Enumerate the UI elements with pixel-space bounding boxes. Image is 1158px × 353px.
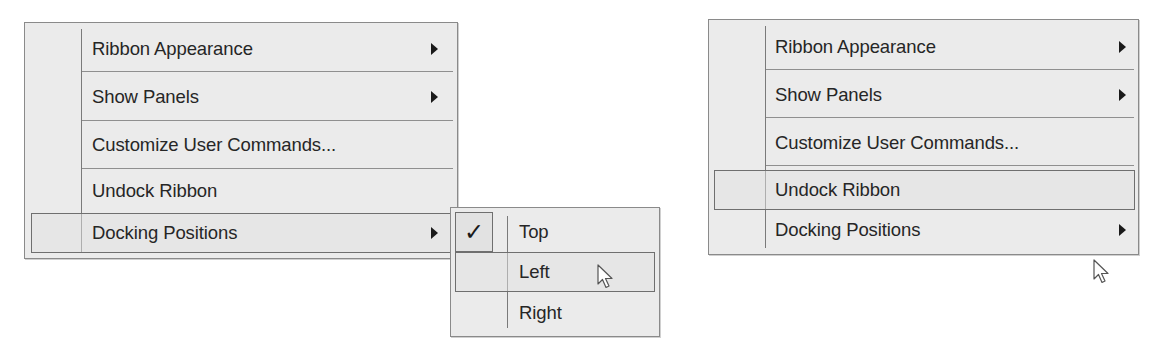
- menu-item-undock-ribbon[interactable]: Undock Ribbon: [709, 170, 1138, 210]
- mouse-cursor-icon: [1093, 259, 1111, 285]
- submenu-item-right[interactable]: Right: [451, 293, 659, 333]
- menu-separator: [766, 117, 1134, 118]
- menu-item-label: Show Panels: [775, 84, 882, 106]
- menu-item-label: Customize User Commands...: [775, 132, 1019, 154]
- submenu-arrow-icon: [1119, 224, 1126, 236]
- menu-item-undock-ribbon[interactable]: Undock Ribbon: [25, 169, 457, 213]
- menu-item-label: Show Panels: [92, 86, 199, 108]
- submenu-item-top[interactable]: Top: [451, 212, 659, 252]
- menu-item-label: Ribbon Appearance: [92, 38, 253, 60]
- submenu-arrow-icon: [431, 91, 438, 103]
- submenu-arrow-icon: [1119, 41, 1126, 53]
- menu-item-ribbon-appearance[interactable]: Ribbon Appearance: [709, 23, 1138, 71]
- submenu-arrow-icon: [1119, 89, 1126, 101]
- menu-item-label: Ribbon Appearance: [775, 36, 936, 58]
- context-menu-right: Ribbon Appearance Show Panels Customize …: [708, 19, 1139, 255]
- mouse-cursor-icon: [597, 264, 615, 290]
- submenu-arrow-icon: [431, 227, 438, 239]
- context-menu-left: Ribbon Appearance Show Panels Customize …: [24, 22, 458, 259]
- menu-item-docking-positions[interactable]: Docking Positions: [709, 210, 1138, 250]
- menu-item-label: Customize User Commands...: [92, 134, 336, 156]
- menu-separator: [766, 69, 1134, 70]
- submenu-arrow-icon: [431, 43, 438, 55]
- submenu-item-left[interactable]: Left: [451, 252, 659, 292]
- submenu-item-label: Right: [519, 302, 562, 324]
- menu-item-label: Docking Positions: [92, 222, 237, 244]
- menu-item-show-panels[interactable]: Show Panels: [709, 71, 1138, 119]
- menu-separator: [766, 165, 1134, 166]
- menu-item-label: Docking Positions: [775, 219, 920, 241]
- menu-item-ribbon-appearance[interactable]: Ribbon Appearance: [25, 25, 457, 73]
- menu-item-docking-positions[interactable]: Docking Positions: [25, 213, 457, 253]
- menu-item-label: Undock Ribbon: [775, 179, 900, 201]
- menu-item-show-panels[interactable]: Show Panels: [25, 73, 457, 121]
- submenu-docking-positions: ✓ Top Left Right: [450, 207, 660, 337]
- menu-item-customize-user-commands[interactable]: Customize User Commands...: [25, 121, 457, 169]
- submenu-item-label: Left: [519, 261, 549, 283]
- menu-item-label: Undock Ribbon: [92, 180, 217, 202]
- menu-item-customize-user-commands[interactable]: Customize User Commands...: [709, 119, 1138, 167]
- submenu-item-label: Top: [519, 221, 549, 243]
- menu-separator: [82, 71, 453, 72]
